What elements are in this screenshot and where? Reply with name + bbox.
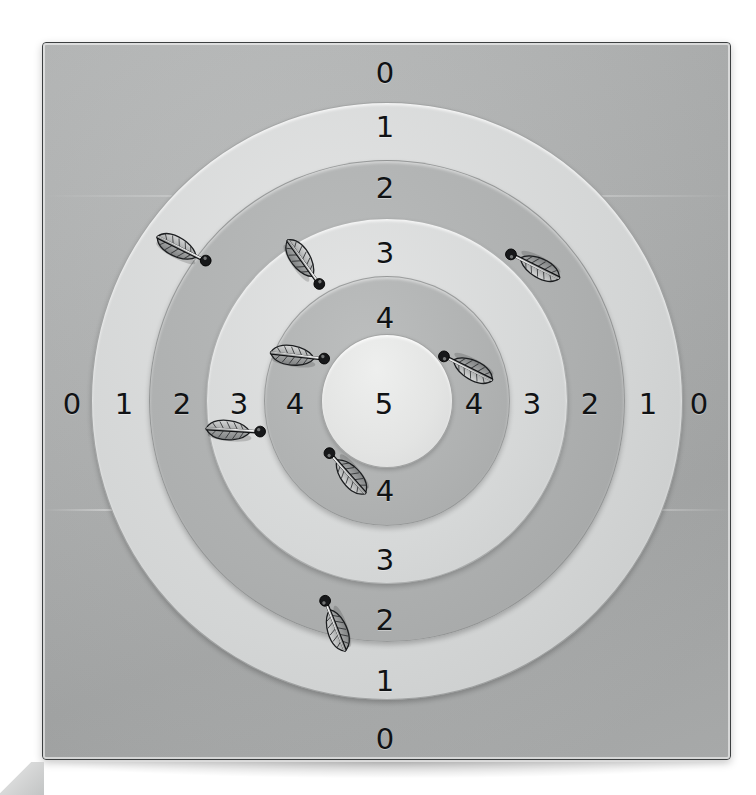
score-label-horizontal-6: 4 (465, 390, 483, 419)
score-label-vertical_top-4: 4 (376, 304, 394, 333)
score-label-vertical_top-1: 1 (376, 113, 394, 142)
score-label-horizontal-0: 0 (63, 390, 81, 419)
score-label-horizontal-1: 1 (115, 390, 133, 419)
score-label-horizontal-10: 0 (690, 390, 708, 419)
mat-drop-shadow (54, 762, 730, 778)
score-label-vertical_top-3: 3 (376, 239, 394, 268)
score-label-vertical_bottom-0: 4 (376, 477, 394, 506)
score-label-vertical_bottom-1: 3 (376, 546, 394, 575)
score-label-horizontal-3: 3 (230, 390, 248, 419)
score-label-horizontal-7: 3 (523, 390, 541, 419)
score-label-horizontal-4: 4 (286, 390, 304, 419)
score-label-horizontal-5: 5 (375, 390, 393, 419)
score-label-horizontal-9: 1 (639, 390, 657, 419)
score-label-horizontal-2: 2 (173, 390, 191, 419)
score-label-vertical_bottom-2: 2 (376, 606, 394, 635)
score-label-vertical_bottom-4: 0 (376, 725, 394, 754)
paper-corner-fold (0, 762, 44, 795)
score-label-vertical_bottom-3: 1 (376, 667, 394, 696)
score-label-horizontal-8: 2 (581, 390, 599, 419)
target-scene: 012344321001234543210 (0, 0, 756, 795)
score-label-vertical_top-2: 2 (376, 174, 394, 203)
score-label-vertical_top-0: 0 (376, 59, 394, 88)
